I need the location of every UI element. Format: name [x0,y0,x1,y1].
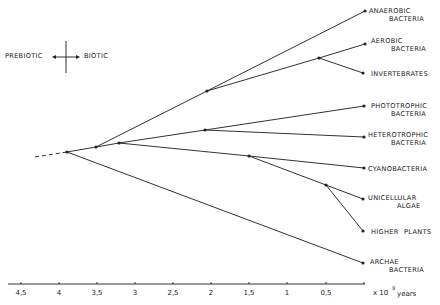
leaf-label-phototrophic: PHOTOTROPHIC [371,102,427,110]
leaf-label-line2: BACTERIA [389,15,424,23]
leaf-label-archae: ARCHAE [370,258,399,266]
branch-node [205,89,208,92]
leaf-node [361,197,364,200]
branch-node [317,56,320,59]
leaf-label-line2: ALGAE [397,202,420,210]
time-axis: 4,5 4 3,5 3 2,5 2 1,5 1 0,5 x 10 9 years [8,282,417,298]
leaf-node [361,71,364,74]
tick-label: 1,5 [243,289,254,297]
leaf-node [362,166,365,169]
leaf-label-anaerobic: ANAEROBIC [369,7,411,15]
branch-node [94,145,97,148]
axis-unit-label: x 10 9 years [373,285,417,298]
tick-label: 3 [133,289,137,297]
biotic-label: BIOTIC [84,52,108,60]
leaf-node [362,104,365,107]
axis-tick-labels: 4,5 4 3,5 3 2,5 2 1,5 1 0,5 [15,289,331,297]
leaf-node [361,261,364,264]
leaf-label-line2: PLANTS [404,228,431,236]
leaf-label-line2: BACTERIA [391,139,426,147]
edge [67,147,96,152]
leaf-labels: ANAEROBIC BACTERIA AEROBIC BACTERIA INVE… [368,7,431,274]
phylogenetic-tree-diagram: PREBIOTIC BIOTIC [0,0,440,305]
edge-phototrophic [205,106,364,130]
unit-suffix: years [397,290,417,298]
edge-invertebrates [319,58,363,73]
leaf-label-higher-plants: HIGHER [371,228,399,236]
tree-edges [35,11,365,263]
leaf-label-aerobic: AEROBIC [371,37,403,45]
tick-label: 0,5 [320,289,331,297]
leaf-node [363,9,366,12]
leaf-label-heterotrophic: HETEROTROPHIC [368,131,428,139]
prebiotic-label: PREBIOTIC [5,52,43,60]
tick-label: 4 [57,289,62,297]
tick-label: 4,5 [15,289,26,297]
leaf-node [361,229,364,232]
left-arrow-icon [52,55,56,59]
leaf-label-line2: BACTERIA [389,266,424,274]
tick-label: 2,5 [167,289,178,297]
tick-label: 1 [285,289,289,297]
unit-prefix: x 10 [373,289,388,297]
root-node [65,150,68,153]
edge [119,130,205,143]
tick-label: 3,5 [91,289,102,297]
edge-aerobic [319,44,365,58]
prebiotic-dashed-root [35,152,67,157]
unit-exponent: 9 [392,285,395,291]
tree-nodes [65,9,366,264]
leaf-label-cyanobacteria: CYANOBACTERIA [368,165,427,173]
branch-node [117,141,120,144]
branch-node [203,128,206,131]
edge-archae [67,152,363,263]
leaf-node [362,135,365,138]
right-arrow-icon [76,55,80,59]
edge [96,91,207,147]
edge [119,143,249,156]
edge-heterotrophic [205,130,364,137]
leaf-label-unicellular: UNICELLULAR [368,194,417,202]
tick-label: 2 [209,289,213,297]
leaf-label-line2: BACTERIA [391,45,426,53]
branch-node [247,154,250,157]
leaf-label-line2: BACTERIA [391,110,426,118]
prebiotic-biotic-legend: PREBIOTIC BIOTIC [5,41,108,73]
branch-node [324,183,327,186]
leaf-label-invertebrates: INVERTEBRATES [371,70,428,78]
leaf-node [363,42,366,45]
